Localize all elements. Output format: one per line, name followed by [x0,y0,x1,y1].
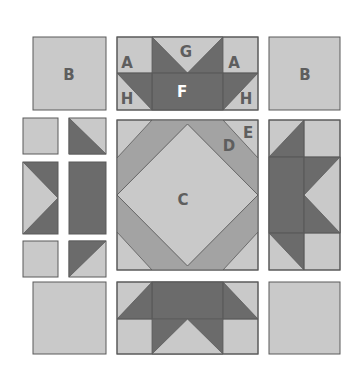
label-h-right: H [240,90,253,108]
star-point-unit-left-exploded [23,118,106,277]
label-e: E [243,124,253,142]
corner-square-top-right: B [269,37,340,110]
quilt-diagram: B A A G F H H B [0,0,362,372]
label-d: D [223,137,235,155]
label-b-left: B [63,66,74,84]
label-a-left: A [121,54,133,72]
label-g: G [180,43,192,61]
star-point-unit-right [269,120,340,270]
corner-square-bottom-left [33,282,106,354]
corner-square-bottom-right [269,282,340,354]
label-b-right: B [299,66,310,84]
center-square-unit: C D E [117,120,258,270]
star-point-unit-bottom [117,282,258,354]
label-h-left: H [121,90,134,108]
label-f: F [177,83,187,101]
corner-square-top-left: B [33,37,106,110]
star-point-unit-top: A A G F H H [117,37,258,110]
label-a-right: A [228,54,240,72]
label-c: C [177,191,188,209]
